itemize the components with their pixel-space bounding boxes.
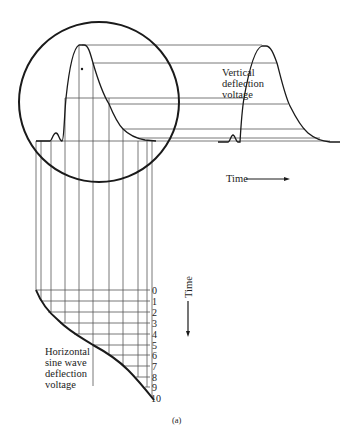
svg-text:7: 7	[152, 361, 157, 372]
marker-dot	[81, 68, 83, 70]
svg-text:deflection: deflection	[45, 368, 88, 379]
svg-text:Horizontal: Horizontal	[45, 346, 90, 357]
svg-text:2: 2	[152, 307, 157, 318]
figure-caption: (a)	[172, 415, 182, 425]
oscilloscope-deflection-diagram: 0 1 2 3 4 5 6 7 8 9 10 Vertical deflecti…	[0, 0, 356, 430]
time-axis-horizontal: Time	[226, 173, 290, 184]
time-axis-vertical: Time	[183, 276, 194, 337]
time-tick-labels: 0 1 2 3 4 5 6 7 8 9 10	[151, 285, 161, 404]
svg-text:Time: Time	[183, 276, 194, 298]
svg-text:voltage: voltage	[45, 379, 76, 390]
svg-text:3: 3	[152, 318, 157, 329]
svg-text:10: 10	[151, 393, 161, 404]
svg-text:9: 9	[152, 382, 157, 393]
svg-text:sine wave: sine wave	[45, 357, 87, 368]
svg-text:Time: Time	[226, 173, 248, 184]
svg-text:0: 0	[152, 285, 157, 296]
svg-text:1: 1	[152, 296, 157, 307]
magnifier-circle	[19, 22, 179, 182]
svg-text:deflection: deflection	[222, 78, 265, 89]
svg-text:4: 4	[152, 329, 157, 340]
horizontal-deflection-label: Horizontal sine wave deflection voltage	[45, 346, 90, 390]
vertical-pulse-waveform-1	[36, 45, 156, 141]
svg-text:6: 6	[152, 350, 157, 361]
horizontal-projection-lines	[36, 45, 330, 141]
vertical-deflection-label: Vertical deflection voltage	[222, 67, 265, 100]
svg-text:Vertical: Vertical	[222, 67, 255, 78]
svg-text:voltage: voltage	[222, 89, 253, 100]
